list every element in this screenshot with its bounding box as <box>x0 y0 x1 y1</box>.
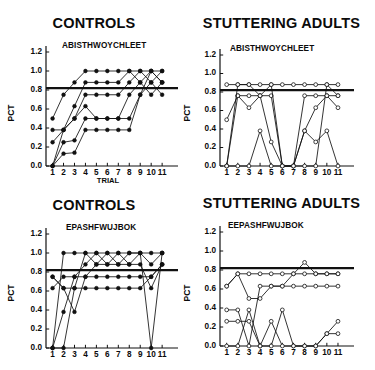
data-point <box>127 93 131 97</box>
data-point <box>84 81 88 85</box>
data-point <box>292 83 296 87</box>
data-point <box>149 263 153 267</box>
data-point <box>138 93 142 97</box>
data-point <box>84 117 88 121</box>
data-point <box>280 272 284 276</box>
data-point <box>314 272 318 276</box>
data-point <box>62 152 66 156</box>
y-tick-label: 0.8 <box>13 85 42 94</box>
data-point <box>325 272 329 276</box>
y-tick-label: 0.8 <box>13 267 42 276</box>
data-point <box>160 251 164 255</box>
y-tick-label: 0.4 <box>13 123 42 132</box>
data-point <box>95 117 99 121</box>
y-tick-label: 1.2 <box>187 50 216 59</box>
y-tick-label: 0.6 <box>187 284 216 293</box>
data-point <box>236 319 240 323</box>
data-point <box>149 275 153 279</box>
data-point <box>138 81 142 85</box>
y-tick-label: 0.8 <box>187 265 216 274</box>
y-tick-label: 0.4 <box>187 124 216 133</box>
data-point <box>336 106 340 110</box>
data-point <box>258 94 262 98</box>
data-point <box>258 83 262 87</box>
data-point <box>325 284 329 288</box>
y-tick-label: 0.0 <box>187 161 216 170</box>
data-point <box>314 140 318 144</box>
data-point <box>325 332 329 336</box>
data-point <box>62 128 66 132</box>
data-point <box>160 263 164 267</box>
data-point <box>127 69 131 73</box>
data-point <box>138 275 142 279</box>
data-point <box>116 117 120 121</box>
data-point <box>73 286 77 290</box>
y-tick-label: 0.2 <box>187 142 216 151</box>
y-tick-label: 0.2 <box>13 324 42 333</box>
data-point <box>84 275 88 279</box>
data-point <box>116 286 120 290</box>
y-tick-label: 0.6 <box>187 105 216 114</box>
figure-panel-grid: CONTROLS ABISTHWOYCHLEET PCT TRIAL 0.00.… <box>0 0 375 370</box>
data-point <box>84 251 88 255</box>
panel-bottom-left: CONTROLS EPASHFWUJBOK PCT 0.00.20.40.60.… <box>0 188 188 370</box>
data-point <box>116 263 120 267</box>
panel-top-right: STUTTERING ADULTS ABISTHWOYCHLEET PCT 0.… <box>188 0 375 188</box>
data-point <box>325 94 329 98</box>
data-point <box>62 251 66 255</box>
plot-area <box>188 0 375 188</box>
data-point <box>247 319 251 323</box>
y-tick-label: 1.0 <box>187 246 216 255</box>
data-point <box>95 69 99 73</box>
x-tick-label: 11 <box>331 168 345 177</box>
data-point <box>105 69 109 73</box>
data-point <box>138 286 142 290</box>
y-tick-label: 0.0 <box>13 343 42 352</box>
panel-bottom-right: STUTTERING ADULTS EEPASHFWUJBOK PCT 0.00… <box>188 188 375 370</box>
data-point <box>116 275 120 279</box>
data-point <box>84 128 88 132</box>
data-point <box>95 93 99 97</box>
panel-top-left: CONTROLS ABISTHWOYCHLEET PCT TRIAL 0.00.… <box>0 0 188 188</box>
data-point <box>160 69 164 73</box>
data-point <box>127 117 131 121</box>
data-point <box>95 251 99 255</box>
data-point <box>73 138 77 142</box>
data-point <box>314 94 318 98</box>
data-point <box>269 272 273 276</box>
plot-area <box>188 188 375 370</box>
data-point <box>247 106 251 110</box>
y-tick-label: 0.4 <box>187 303 216 312</box>
y-tick-label: 0.6 <box>13 286 42 295</box>
data-point <box>127 128 131 132</box>
data-point <box>303 261 307 265</box>
y-tick-label: 1.0 <box>13 248 42 257</box>
x-tick-label: 11 <box>331 348 345 357</box>
series-line <box>227 286 338 346</box>
data-point <box>325 83 329 87</box>
data-point <box>73 117 77 121</box>
data-point <box>149 286 153 290</box>
data-point <box>127 275 131 279</box>
data-point <box>84 104 88 108</box>
data-point <box>116 251 120 255</box>
data-point <box>95 128 99 132</box>
data-point <box>292 272 296 276</box>
data-point <box>105 263 109 267</box>
data-point <box>247 297 251 301</box>
data-point <box>292 284 296 288</box>
data-point <box>236 83 240 87</box>
y-tick-label: 0.0 <box>187 341 216 350</box>
data-point <box>336 284 340 288</box>
data-point <box>62 275 66 279</box>
data-point <box>95 286 99 290</box>
data-point <box>84 93 88 97</box>
data-point <box>303 284 307 288</box>
data-point <box>116 128 120 132</box>
data-point <box>127 286 131 290</box>
data-point <box>314 106 318 110</box>
data-point <box>127 251 131 255</box>
data-point <box>314 83 318 87</box>
data-point <box>225 308 229 312</box>
data-point <box>269 140 273 144</box>
